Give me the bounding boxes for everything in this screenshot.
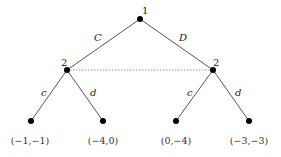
payoff-3: (0,−4) (161, 136, 191, 146)
edge-left-c (31, 70, 67, 121)
game-tree-edges (0, 0, 281, 157)
leaf-node-3 (173, 118, 179, 124)
edge-D (140, 19, 213, 70)
leaf-node-4 (246, 118, 252, 124)
action-C-label: C (94, 33, 102, 43)
leaf-node-1 (28, 118, 34, 124)
action-right-c-label: c (187, 88, 193, 98)
edge-C (67, 19, 140, 70)
edge-left-d (67, 70, 103, 121)
edge-right-d (213, 70, 249, 121)
action-D-label: D (179, 33, 187, 43)
root-node (137, 16, 143, 22)
payoff-4: (−3,−3) (230, 136, 268, 146)
leaf-node-2 (100, 118, 106, 124)
action-left-d-label: d (90, 88, 96, 98)
payoff-1: (−1,−1) (11, 136, 49, 146)
action-left-c-label: c (41, 88, 47, 98)
payoff-2: (−4,0) (88, 136, 118, 146)
edge-right-c (176, 70, 213, 121)
p2-left-label: 2 (61, 58, 67, 68)
p2-right-label: 2 (213, 58, 219, 68)
action-right-d-label: d (235, 88, 241, 98)
root-player-label: 1 (142, 6, 148, 16)
